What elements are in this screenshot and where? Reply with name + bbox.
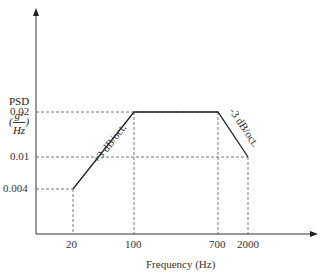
y-unit-denominator: Hz [13, 123, 26, 137]
x-axis-title: Frequency (Hz) [146, 258, 215, 270]
y-tick-0.01: 0.01 [10, 150, 29, 162]
x-axis-arrow-icon [310, 231, 318, 237]
x-tick-20: 20 [66, 238, 77, 250]
y-tick-0.004: 0.004 [3, 182, 28, 194]
x-tick-2000: 2000 [237, 238, 259, 250]
x-tick-100: 100 [125, 238, 142, 250]
reference-lines [36, 112, 248, 234]
x-tick-700: 700 [209, 238, 226, 250]
y-axis-arrow-icon [33, 8, 39, 16]
slope-down-label: -3 dB/oct. [227, 105, 262, 148]
y-tick-0.02: 0.02 [10, 105, 29, 117]
slope-up-label: +3 dB/oct. [90, 121, 128, 165]
psd-chart: +3 dB/oct. -3 dB/oct. [0, 0, 327, 277]
